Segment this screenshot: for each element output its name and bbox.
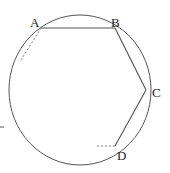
circle [9, 15, 151, 165]
segment-CD [115, 90, 146, 146]
label-A: A [30, 15, 40, 30]
label-C: C [152, 85, 161, 100]
label-B: B [111, 15, 120, 30]
label-D: D [117, 148, 126, 163]
circle-diagram: A B C D [0, 0, 170, 173]
